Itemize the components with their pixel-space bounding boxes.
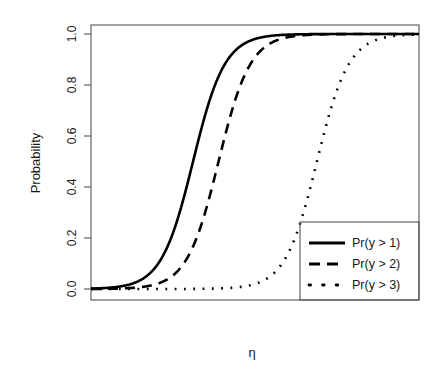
- y-tick-label-0.6: 0.6: [65, 127, 79, 144]
- y-axis-title: Probability: [28, 132, 43, 193]
- y-tick-label-0.2: 0.2: [65, 229, 79, 246]
- legend-label-0: Pr(y > 1): [352, 236, 400, 250]
- legend-label-1: Pr(y > 2): [352, 257, 400, 271]
- legend-label-2: Pr(y > 3): [352, 278, 400, 292]
- x-axis-title: η: [248, 345, 255, 360]
- y-tick-label-0.4: 0.4: [65, 178, 79, 195]
- y-tick-label-0.8: 0.8: [65, 76, 79, 93]
- probability-curves-chart: 1.0 0.8 0.6 0.4 0.2 0.0 Probability η Pr…: [0, 0, 436, 371]
- y-tick-label-0.0: 0.0: [65, 280, 79, 297]
- y-tick-label-1.0: 1.0: [65, 25, 79, 42]
